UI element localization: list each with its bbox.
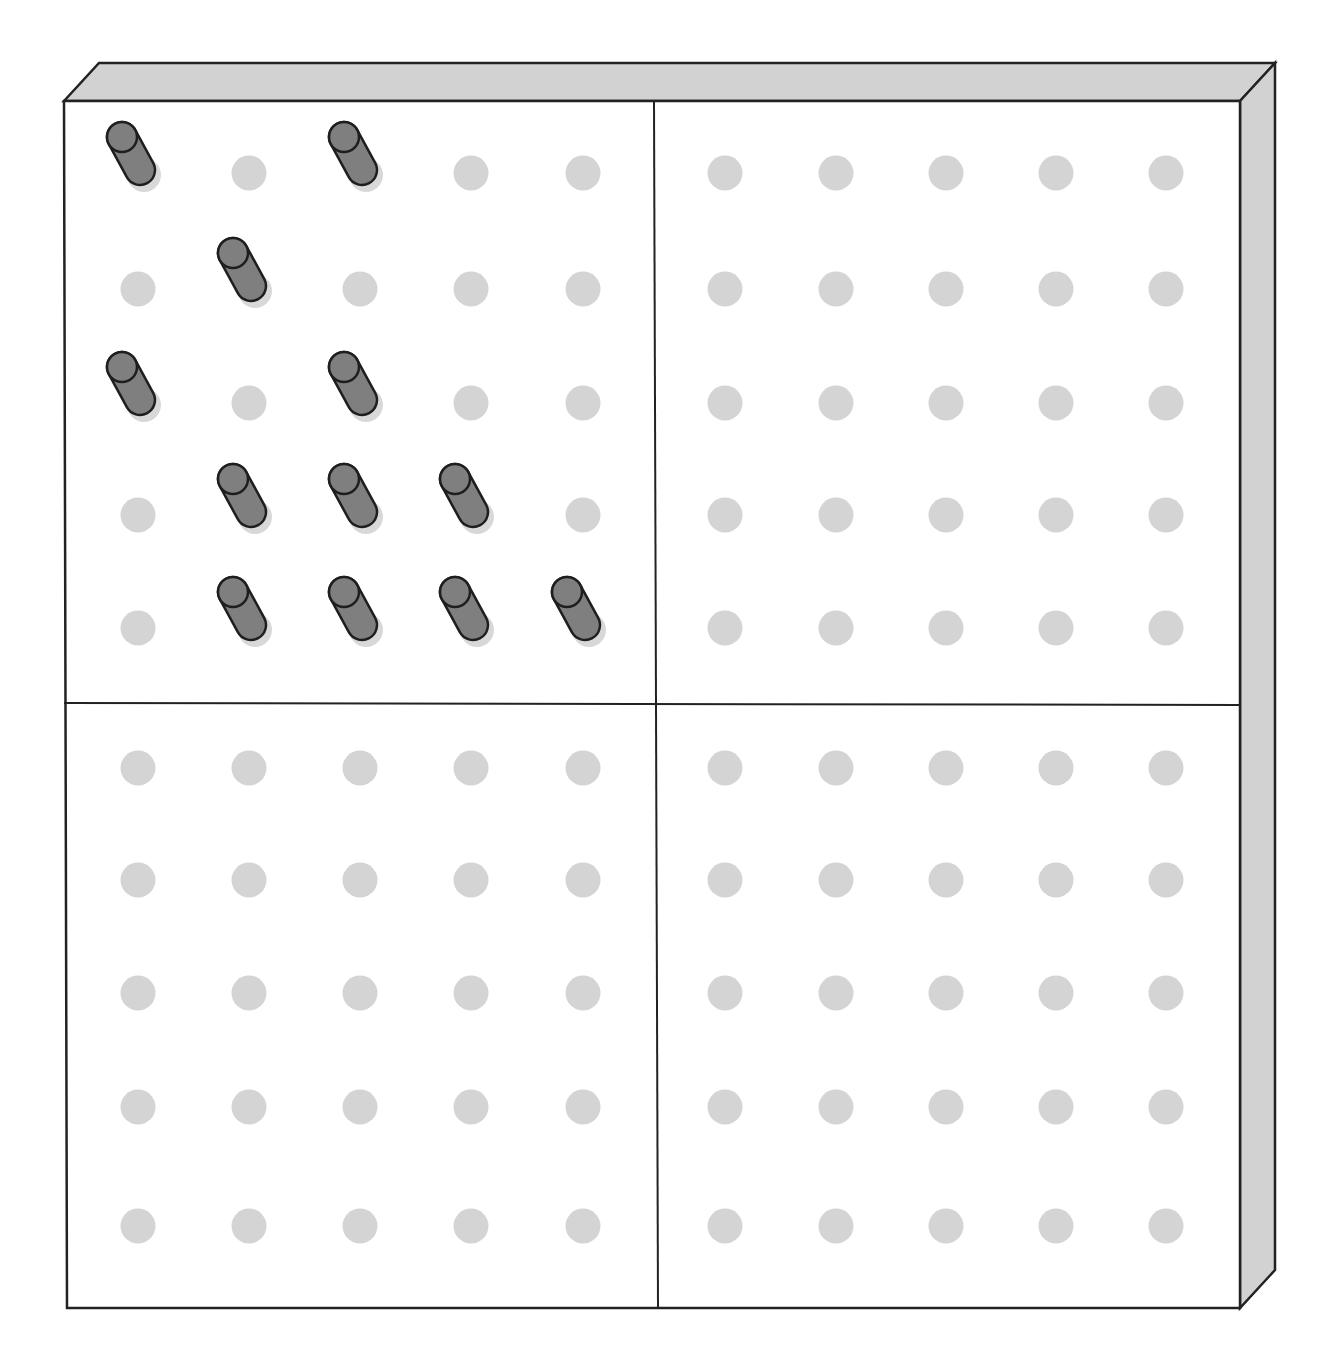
hole[interactable] xyxy=(566,863,601,898)
hole[interactable] xyxy=(1039,386,1074,421)
hole[interactable] xyxy=(819,1209,854,1244)
peg-cap xyxy=(218,464,248,494)
hole[interactable] xyxy=(708,863,743,898)
hole[interactable] xyxy=(232,156,267,191)
hole[interactable] xyxy=(708,272,743,307)
hole[interactable] xyxy=(929,976,964,1011)
hole[interactable] xyxy=(454,976,489,1011)
hole[interactable] xyxy=(232,1209,267,1244)
hole[interactable] xyxy=(454,272,489,307)
hole[interactable] xyxy=(343,751,378,786)
hole[interactable] xyxy=(708,976,743,1011)
hole[interactable] xyxy=(1039,1209,1074,1244)
peg-cap xyxy=(218,238,248,268)
hole[interactable] xyxy=(121,1090,156,1125)
geoboard xyxy=(0,0,1330,1364)
hole[interactable] xyxy=(929,272,964,307)
hole[interactable] xyxy=(1149,1090,1184,1125)
hole[interactable] xyxy=(819,498,854,533)
hole[interactable] xyxy=(232,386,267,421)
hole[interactable] xyxy=(819,272,854,307)
hole[interactable] xyxy=(1149,751,1184,786)
hole[interactable] xyxy=(121,863,156,898)
hole[interactable] xyxy=(121,751,156,786)
hole[interactable] xyxy=(343,1209,378,1244)
hole[interactable] xyxy=(1039,751,1074,786)
hole[interactable] xyxy=(1039,976,1074,1011)
hole[interactable] xyxy=(454,1090,489,1125)
hole[interactable] xyxy=(1039,611,1074,646)
peg-cap xyxy=(440,464,470,494)
hole[interactable] xyxy=(1149,386,1184,421)
hole[interactable] xyxy=(343,863,378,898)
hole[interactable] xyxy=(708,386,743,421)
peg-cap xyxy=(329,577,359,607)
hole[interactable] xyxy=(929,611,964,646)
hole[interactable] xyxy=(121,272,156,307)
hole[interactable] xyxy=(708,611,743,646)
hole[interactable] xyxy=(1039,863,1074,898)
hole[interactable] xyxy=(454,863,489,898)
hole[interactable] xyxy=(1149,272,1184,307)
hole[interactable] xyxy=(566,272,601,307)
hole[interactable] xyxy=(343,976,378,1011)
peg-cap xyxy=(218,577,248,607)
hole[interactable] xyxy=(708,1209,743,1244)
hole[interactable] xyxy=(1149,976,1184,1011)
board-top-edge xyxy=(64,63,1275,101)
hole[interactable] xyxy=(708,751,743,786)
hole[interactable] xyxy=(1149,156,1184,191)
hole[interactable] xyxy=(566,976,601,1011)
hole[interactable] xyxy=(121,498,156,533)
hole[interactable] xyxy=(819,976,854,1011)
peg-cap xyxy=(329,464,359,494)
hole[interactable] xyxy=(929,386,964,421)
hole[interactable] xyxy=(566,1090,601,1125)
hole[interactable] xyxy=(929,156,964,191)
peg-cap xyxy=(107,352,137,382)
peg-cap xyxy=(440,577,470,607)
hole[interactable] xyxy=(121,1209,156,1244)
hole[interactable] xyxy=(819,863,854,898)
hole[interactable] xyxy=(1039,1090,1074,1125)
hole[interactable] xyxy=(819,386,854,421)
hole[interactable] xyxy=(929,863,964,898)
hole[interactable] xyxy=(1149,498,1184,533)
peg-cap xyxy=(329,122,359,152)
hole[interactable] xyxy=(708,156,743,191)
hole[interactable] xyxy=(819,156,854,191)
hole[interactable] xyxy=(1039,272,1074,307)
hole[interactable] xyxy=(708,498,743,533)
hole[interactable] xyxy=(454,1209,489,1244)
hole[interactable] xyxy=(566,751,601,786)
hole[interactable] xyxy=(929,498,964,533)
hole[interactable] xyxy=(1149,611,1184,646)
hole[interactable] xyxy=(1149,1209,1184,1244)
hole[interactable] xyxy=(121,976,156,1011)
hole[interactable] xyxy=(566,386,601,421)
hole[interactable] xyxy=(708,1090,743,1125)
hole[interactable] xyxy=(454,156,489,191)
hole[interactable] xyxy=(566,156,601,191)
hole[interactable] xyxy=(819,611,854,646)
hole[interactable] xyxy=(232,976,267,1011)
hole[interactable] xyxy=(1039,498,1074,533)
hole[interactable] xyxy=(343,272,378,307)
hole[interactable] xyxy=(566,498,601,533)
hole[interactable] xyxy=(232,751,267,786)
hole[interactable] xyxy=(929,751,964,786)
hole[interactable] xyxy=(343,1090,378,1125)
hole[interactable] xyxy=(121,611,156,646)
hole[interactable] xyxy=(454,386,489,421)
hole[interactable] xyxy=(232,1090,267,1125)
hole[interactable] xyxy=(566,1209,601,1244)
hole[interactable] xyxy=(819,751,854,786)
hole[interactable] xyxy=(1039,156,1074,191)
hole[interactable] xyxy=(929,1090,964,1125)
peg-cap xyxy=(552,577,582,607)
hole[interactable] xyxy=(454,751,489,786)
hole[interactable] xyxy=(232,863,267,898)
hole[interactable] xyxy=(1149,863,1184,898)
hole[interactable] xyxy=(819,1090,854,1125)
hole[interactable] xyxy=(929,1209,964,1244)
